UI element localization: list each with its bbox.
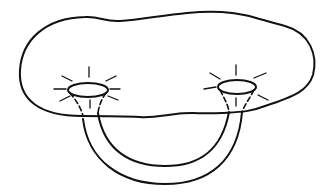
right-opening xyxy=(204,65,268,112)
handle-outer-arc xyxy=(83,112,242,184)
surface-outline xyxy=(20,12,315,118)
surface-with-handle-diagram xyxy=(0,0,332,196)
left-opening xyxy=(54,67,120,116)
handle-inner-arc xyxy=(98,112,229,166)
diagram-canvas xyxy=(0,0,332,196)
left-opening-rim xyxy=(68,83,108,97)
right-opening-rim xyxy=(218,80,256,94)
